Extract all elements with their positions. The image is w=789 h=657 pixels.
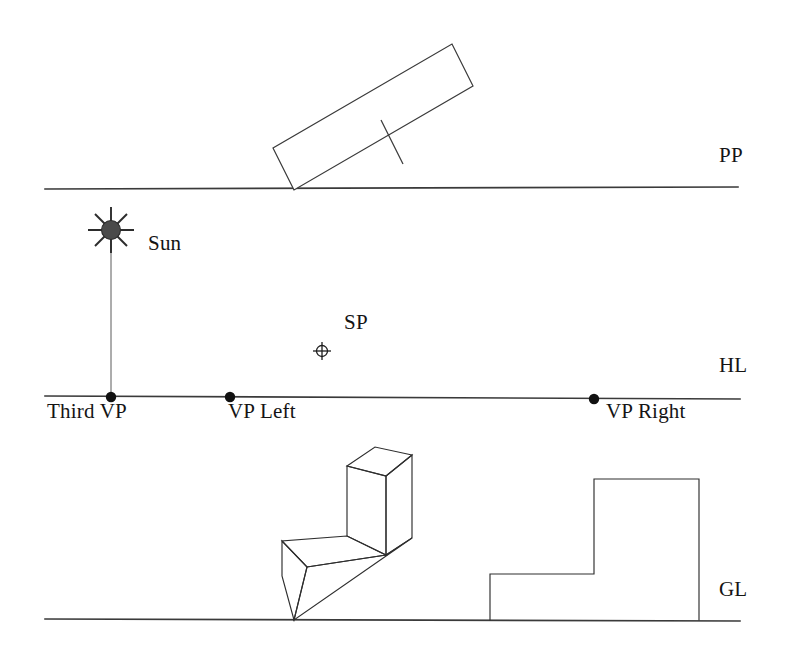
block-riser-top-face — [347, 447, 412, 476]
plan-rectangle-outline — [273, 44, 473, 190]
label-sun: Sun — [148, 233, 181, 254]
elevation-step-outline — [490, 479, 699, 620]
perspective-diagram: PP HL GL Sun SP Third VP VP Left VP Righ… — [0, 0, 789, 657]
label-third-vp: Third VP — [47, 401, 127, 422]
perspective-l-block — [282, 447, 412, 620]
picture-plane-line — [45, 187, 738, 189]
sun-symbol — [88, 207, 134, 397]
label-station-point: SP — [344, 312, 368, 333]
label-ground-line: GL — [719, 579, 747, 600]
sun-disc-icon — [102, 221, 121, 240]
label-horizon-line: HL — [719, 355, 747, 376]
label-picture-plane: PP — [719, 145, 743, 166]
station-point-marker — [313, 342, 331, 360]
block-arm-front-face — [294, 538, 412, 620]
block-riser-front-face — [347, 466, 386, 555]
ground-line — [45, 619, 740, 621]
label-vp-right: VP Right — [606, 401, 686, 422]
vp-right-dot — [589, 394, 599, 404]
plan-view-rectangle — [273, 44, 473, 190]
diagram-canvas — [0, 0, 789, 657]
label-vp-left: VP Left — [228, 401, 296, 422]
